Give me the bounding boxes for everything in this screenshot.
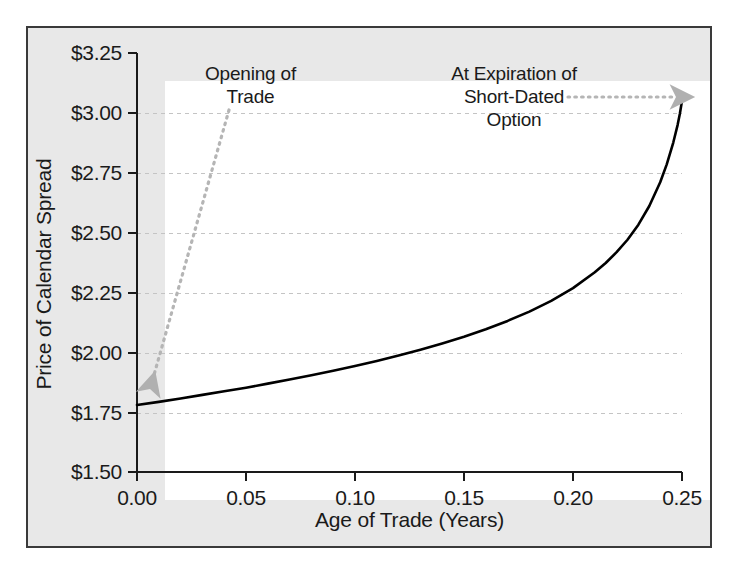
xtick-label-0-20: 0.20 [528, 486, 618, 510]
calendar-spread-curve [137, 101, 682, 405]
annotation-opening-of-trade: Opening of Trade [163, 62, 338, 108]
ytick-label-3-25: $3.25 [30, 41, 122, 65]
annotation-expiration-line-1: At Expiration of [420, 62, 608, 85]
gridlines [137, 113, 682, 413]
xtick-label-0-25: 0.25 [637, 486, 727, 510]
xtick-label-0-00: 0.00 [92, 486, 182, 510]
y-axis-title: Price of Calendar Spread [32, 65, 56, 484]
annotation-expiration-line-3: Option [420, 108, 608, 131]
annotation-opening-line-2: Trade [163, 85, 338, 108]
y-axis-ticks [128, 53, 137, 472]
opening-of-trade-arrow [150, 110, 229, 389]
annotation-at-expiration: At Expiration of Short-Dated Option [420, 62, 608, 132]
x-axis-ticks [137, 472, 682, 481]
xtick-label-0-10: 0.10 [310, 486, 400, 510]
xtick-label-0-15: 0.15 [419, 486, 509, 510]
chart-figure: $3.25 $3.00 $2.75 $2.50 $2.25 $2.00 $1.7… [0, 0, 738, 565]
x-axis-title: Age of Trade (Years) [137, 508, 682, 532]
annotation-opening-line-1: Opening of [163, 62, 338, 85]
annotation-arrows [150, 97, 676, 389]
annotation-expiration-line-2: Short-Dated [420, 85, 608, 108]
xtick-label-0-05: 0.05 [201, 486, 291, 510]
